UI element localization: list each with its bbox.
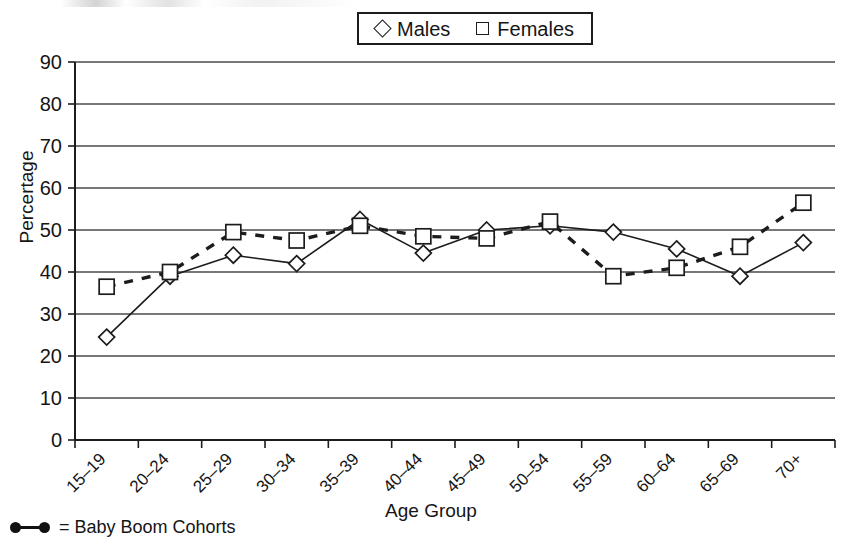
legend-label-females: Females <box>497 19 574 39</box>
footnote-text: = Baby Boom Cohorts <box>59 517 236 538</box>
svg-text:80: 80 <box>40 93 62 115</box>
data-point-females-15–19 <box>99 279 114 294</box>
svg-text:60: 60 <box>40 177 62 199</box>
data-series-markers <box>99 195 812 345</box>
svg-text:65–69: 65–69 <box>696 449 743 496</box>
legend-entry-males: Males <box>376 19 450 39</box>
svg-text:70: 70 <box>40 135 62 157</box>
svg-text:30–34: 30–34 <box>253 449 300 496</box>
data-point-females-30–34 <box>289 233 304 248</box>
svg-text:60–64: 60–64 <box>633 449 680 496</box>
data-point-females-20–24 <box>163 265 178 280</box>
svg-text:15–19: 15–19 <box>63 449 110 496</box>
svg-text:40: 40 <box>40 261 62 283</box>
svg-text:55–59: 55–59 <box>569 449 616 496</box>
data-point-males-55–59 <box>605 224 621 240</box>
svg-text:20: 20 <box>40 345 62 367</box>
chart-legend: Males Females <box>357 12 593 45</box>
footnote-baby-boom: = Baby Boom Cohorts <box>10 517 236 538</box>
svg-text:45–49: 45–49 <box>443 449 490 496</box>
data-point-females-65–69 <box>733 239 748 254</box>
svg-text:25–29: 25–29 <box>189 449 236 496</box>
data-point-males-65–69 <box>732 268 748 284</box>
square-marker-icon <box>476 22 489 35</box>
svg-text:40–44: 40–44 <box>379 449 426 496</box>
data-point-females-25–29 <box>226 225 241 240</box>
y-axis-title: Percertage <box>16 117 38 277</box>
svg-text:0: 0 <box>51 429 62 451</box>
svg-text:50: 50 <box>40 219 62 241</box>
svg-text:90: 90 <box>40 51 62 73</box>
gridlines <box>75 62 835 398</box>
data-point-females-50–54 <box>543 214 558 229</box>
legend-entry-females: Females <box>476 19 574 39</box>
svg-text:10: 10 <box>40 387 62 409</box>
legend-label-males: Males <box>397 19 450 39</box>
data-point-males-70+ <box>795 235 811 251</box>
svg-text:70+: 70+ <box>772 449 806 483</box>
baby-boom-line-icon <box>10 522 52 534</box>
axis-lines <box>75 62 835 440</box>
y-axis-ticks: 0102030405060708090 <box>40 51 75 451</box>
data-point-males-30–34 <box>289 256 305 272</box>
data-point-females-60–64 <box>669 260 684 275</box>
data-point-females-40–44 <box>416 229 431 244</box>
data-series-lines <box>107 203 804 337</box>
data-point-males-25–29 <box>225 247 241 263</box>
data-point-males-60–64 <box>669 241 685 257</box>
data-point-females-70+ <box>796 195 811 210</box>
chart-plot-area: 0102030405060708090 15–1920–2425–2930–34… <box>0 0 862 500</box>
svg-text:20–24: 20–24 <box>126 449 173 496</box>
data-point-females-45–49 <box>479 231 494 246</box>
x-axis-labels: 15–1920–2425–2930–3435–3940–4445–4950–54… <box>63 449 807 496</box>
series-line-females <box>107 203 804 287</box>
data-point-females-55–59 <box>606 269 621 284</box>
svg-text:35–39: 35–39 <box>316 449 363 496</box>
diamond-marker-icon <box>373 19 391 37</box>
chart-figure: Males Females Percertage Age Group 01020… <box>0 0 862 552</box>
x-axis-ticks <box>75 440 835 448</box>
svg-text:50–54: 50–54 <box>506 449 553 496</box>
data-point-females-35–39 <box>353 218 368 233</box>
svg-text:30: 30 <box>40 303 62 325</box>
data-point-males-40–44 <box>415 245 431 261</box>
